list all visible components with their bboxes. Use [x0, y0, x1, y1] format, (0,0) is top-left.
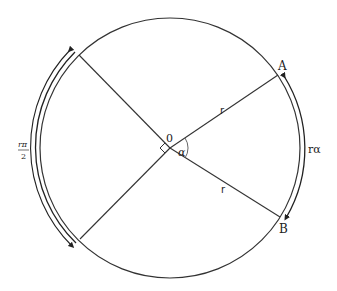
circle-diagram: 0 α r r A B rα rπ 2: [0, 0, 337, 291]
point-A-label: A: [277, 59, 287, 73]
radius-label-lower: r: [221, 184, 226, 195]
fraction-numerator: rπ: [18, 140, 28, 149]
quarter-arc-label: rπ 2: [18, 140, 29, 161]
alpha-label: α: [178, 146, 186, 159]
line-upper-left-to-center: [79, 55, 170, 148]
angle-alpha-arc: [185, 138, 188, 158]
radius-OB: [170, 148, 280, 217]
fraction-denominator: 2: [21, 152, 26, 161]
point-B-label: B: [279, 222, 288, 236]
quarter-arc-inner: [35, 52, 76, 243]
line-lower-left-to-center: [80, 148, 170, 239]
center-label: 0: [166, 132, 173, 145]
quarter-arc-outer-arrow: [31, 50, 72, 246]
arc-AB-arrow: [284, 76, 305, 218]
arc-AB-label: rα: [308, 143, 321, 156]
radius-label-upper: r: [220, 105, 225, 116]
